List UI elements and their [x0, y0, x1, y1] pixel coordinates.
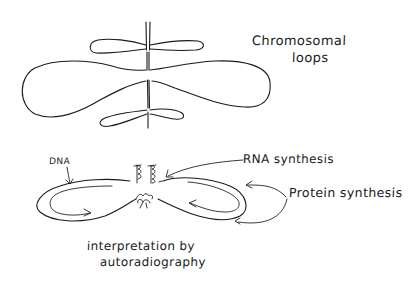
rna-coils	[134, 165, 162, 183]
chromosomal-loops-drawing	[0, 0, 420, 285]
rna-synthesis-label: RNA synthesis	[243, 153, 334, 165]
large-loop-pair	[22, 61, 270, 117]
bottom-loop-pair	[100, 109, 184, 126]
caption-line-1: interpretation by	[87, 240, 195, 252]
diagram-canvas: Chromosomal loops DNA RNA synthesis Prot…	[0, 0, 420, 285]
caption-line-2: autoradiography	[100, 256, 206, 268]
dna-label: DNA	[49, 157, 70, 166]
protein-squiggles	[136, 194, 153, 208]
chromosome-axis	[146, 22, 150, 128]
protein-synthesis-label: Protein synthesis	[289, 187, 403, 200]
annotation-arrows	[66, 160, 287, 224]
chromosomal-loops-title: Chromosomal	[252, 34, 347, 47]
chromosomal-loops-subtitle: loops	[292, 51, 329, 64]
